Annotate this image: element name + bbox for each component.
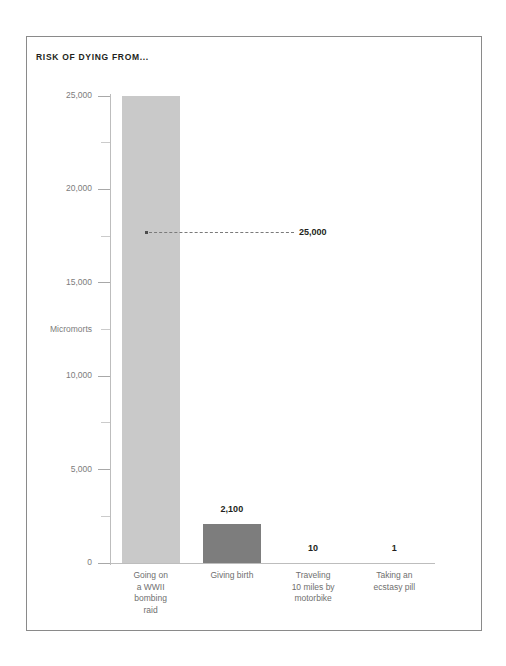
bar-value-label: 2,100 (192, 504, 272, 514)
y-axis-tick-label: 15,000 (20, 277, 92, 287)
y-axis-tick-minor (101, 236, 110, 237)
x-axis-category-label: Going ona WWIIbombingraid (110, 570, 191, 616)
category-label-line: a WWII (110, 582, 191, 594)
category-label-line: raid (110, 605, 191, 617)
y-axis-tick-major (98, 189, 110, 190)
x-axis-category-label: Giving birth (191, 570, 272, 582)
annotation-dot-icon (145, 231, 148, 234)
y-axis-tick-label: 5,000 (20, 464, 92, 474)
y-axis-tick-major (98, 96, 110, 97)
x-axis-category-labels: Going ona WWIIbombingraidGiving birthTra… (110, 570, 435, 630)
category-label-line: motorbike (273, 593, 354, 605)
category-label-line: Giving birth (191, 570, 272, 582)
y-axis-tick-minor (101, 142, 110, 143)
bar (122, 96, 180, 563)
y-axis-tick-label: 25,000 (20, 90, 92, 100)
bar-series (110, 96, 435, 563)
bar-value-label: 1 (354, 543, 434, 553)
y-axis-tick-label: 0 (20, 557, 92, 567)
y-axis-tick-minor (101, 422, 110, 423)
y-axis-tick-label: 10,000 (20, 370, 92, 380)
y-axis-tick-minor (101, 516, 110, 517)
category-label-line: Traveling (273, 570, 354, 582)
y-axis-tick-major (98, 469, 110, 470)
y-axis-tick-major (98, 563, 110, 564)
category-label-line: Taking an (354, 570, 435, 582)
annotation-leader-line (149, 232, 294, 234)
category-label-line: Going on (110, 570, 191, 582)
y-axis-tick-label: 20,000 (20, 183, 92, 193)
category-label-line: bombing (110, 593, 191, 605)
category-label-line: ecstasy pill (354, 582, 435, 594)
x-axis-line (110, 563, 435, 564)
bar-value-label: 10 (273, 543, 353, 553)
y-axis-tick-minor (101, 329, 110, 330)
y-axis-tick-major (98, 376, 110, 377)
y-axis-tick-major (98, 282, 110, 283)
category-label-line: 10 miles by (273, 582, 354, 594)
y-axis-title: Micromorts (20, 324, 92, 334)
y-axis-tick-labels: 05,00010,00015,00020,00025,000Micromorts (20, 0, 92, 666)
annotation-label: 25,000 (299, 227, 327, 237)
bar (203, 524, 261, 563)
x-axis-category-label: Taking anecstasy pill (354, 570, 435, 593)
x-axis-category-label: Traveling10 miles bymotorbike (273, 570, 354, 605)
